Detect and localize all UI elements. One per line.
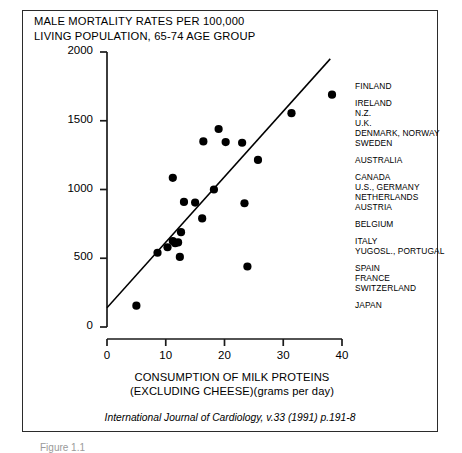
data-point [176,253,184,261]
legend-row: JAPAN [355,301,445,311]
legend-row: FINLAND [355,82,445,92]
data-points-group [132,91,336,310]
legend-group: AUSTRALIA [355,156,445,166]
x-axis-title-line1: CONSUMPTION OF MILK PROTEINS [135,371,330,383]
data-point [169,174,177,182]
data-point [243,262,251,270]
country-legend: FINLANDIRELANDN.Z.U.K.DENMARK, NORWAYSWE… [355,82,445,318]
x-axis-title: CONSUMPTION OF MILK PROTEINS (EXCLUDING … [107,370,357,398]
data-point [153,249,161,257]
x-tick-label: 40 [327,349,357,361]
legend-group: SPAINFRANCESWITZERLAND [355,264,445,294]
data-point [210,185,218,193]
data-point [240,199,248,207]
data-point [163,243,171,251]
legend-group: FINLAND [355,82,445,92]
legend-row: SWITZERLAND [355,284,445,294]
data-point [174,238,182,246]
data-point [198,214,206,222]
trend-line-group [107,59,330,308]
x-tick-label: 30 [268,349,298,361]
legend-group: BELGIUM [355,220,445,230]
x-tick-label: 20 [210,349,240,361]
data-point [222,138,230,146]
legend-group: ITALYYUGOSL., PORTUGAL [355,237,445,257]
data-point [215,125,223,133]
data-point [254,156,262,164]
x-tick-label: 10 [151,349,181,361]
y-tick-label: 1000 [47,182,93,194]
legend-group: IRELANDN.Z.U.K.DENMARK, NORWAYSWEDEN [355,99,445,149]
figure-caption: Figure 1.1 [40,442,85,453]
data-point [191,198,199,206]
legend-group: JAPAN [355,301,445,311]
y-tick-label: 1500 [47,113,93,125]
y-tick-label: 2000 [47,44,93,56]
data-point [328,91,336,99]
data-point [199,137,207,145]
data-point [177,228,185,236]
data-point [180,198,188,206]
x-tick-label: 0 [92,349,122,361]
y-tick-label: 0 [47,319,93,331]
legend-row: AUSTRIA [355,203,445,213]
data-point [238,139,246,147]
data-point [287,109,295,117]
x-axis-title-line2: (EXCLUDING CHEESE)(grams per day) [130,385,334,397]
legend-row: BELGIUM [355,220,445,230]
legend-group: CANADAU.S., GERMANYNETHERLANDSAUSTRIA [355,173,445,213]
legend-row: SWEDEN [355,139,445,149]
y-tick-label: 500 [47,250,93,262]
source-citation: International Journal of Cardiology, v.3… [60,412,400,423]
legend-row: YUGOSL., PORTUGAL [355,247,445,257]
legend-row: AUSTRALIA [355,156,445,166]
data-point [132,302,140,310]
